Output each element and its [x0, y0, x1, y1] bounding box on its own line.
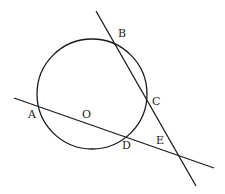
center-label-O: O: [82, 108, 91, 121]
point-label-A: A: [27, 108, 37, 121]
geometry-diagram: A B C D E O: [0, 0, 225, 194]
line-AD-secant: [14, 98, 214, 168]
point-label-E: E: [156, 134, 164, 147]
point-label-D: D: [122, 139, 131, 152]
point-label-B: B: [118, 27, 126, 40]
circle-O: [37, 39, 147, 149]
line-BC-secant: [96, 11, 196, 186]
point-label-C: C: [152, 95, 160, 108]
